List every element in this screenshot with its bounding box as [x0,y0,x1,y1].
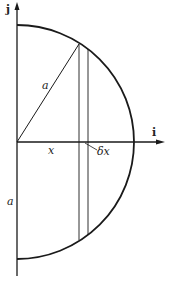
i-axis-label: i [152,127,156,138]
j-axis-arrow-icon [15,2,20,10]
x-distance-label: x [48,145,54,156]
j-axis-label: j [6,4,10,15]
radius-line [17,44,79,142]
radius-label-a: a [42,80,49,91]
delta-x-leader [85,143,97,150]
radius-label-a-bottom: a [7,196,14,207]
delta-x-label: δx [97,146,110,157]
semicircle-diagram [0,0,169,289]
i-axis-arrow-icon [156,140,165,145]
